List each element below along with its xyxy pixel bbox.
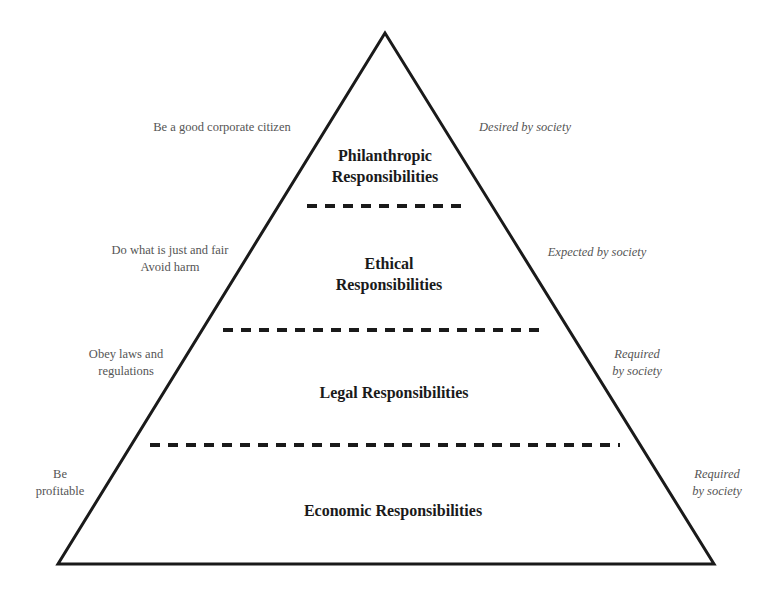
layer-label-legal: Legal Responsibilities [320,382,469,403]
right-note-ethical: Expected by society [548,244,647,261]
left-note-philanthropic: Be a good corporate citizen [153,119,290,136]
right-note-legal: Required by society [612,346,662,380]
left-note-legal: Obey laws and regulations [89,346,163,380]
layer-label-philanthropic: Philanthropic Responsibilities [332,145,439,187]
left-note-ethical: Do what is just and fair Avoid harm [112,242,229,276]
right-note-economic: Required by society [692,466,742,500]
pyramid-outline [58,33,714,564]
layer-label-economic: Economic Responsibilities [304,500,482,521]
layer-label-ethical: Ethical Responsibilities [336,253,443,295]
left-note-economic: Be profitable [36,466,85,500]
right-note-philanthropic: Desired by society [479,119,571,136]
